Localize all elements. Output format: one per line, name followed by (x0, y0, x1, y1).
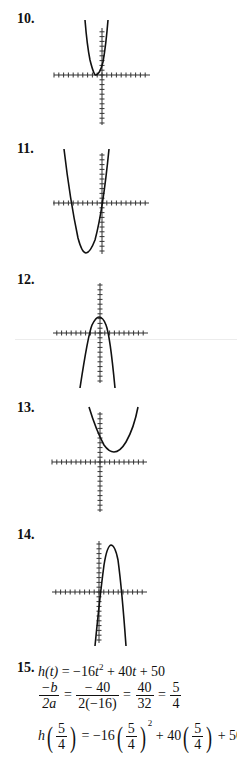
term-b: + 40 (103, 664, 132, 679)
denominator: 4 (56, 737, 67, 752)
parabola-curve (89, 407, 138, 452)
exponent: 2 (148, 718, 153, 728)
fraction-neg-b-over-2a: −b2a (39, 680, 59, 711)
numerator: 5 (170, 680, 181, 696)
function-h-of-t: h(t) (38, 664, 58, 679)
denominator: 2(−16) (76, 696, 118, 711)
right-paren: ) (140, 722, 146, 752)
problem-11-graph (0, 140, 237, 280)
denominator: 4 (126, 737, 137, 752)
axes (54, 28, 150, 125)
function-h: h (38, 728, 45, 743)
term-a: = −16 (58, 664, 95, 679)
problem-12-graph (0, 275, 237, 400)
equals: = (123, 687, 131, 702)
right-paren: ) (206, 722, 212, 752)
numerator: 5 (126, 721, 137, 737)
axes (53, 153, 149, 254)
denominator: 4 (170, 696, 181, 711)
parabola-curve (85, 20, 108, 75)
term-b: + 40 (152, 728, 181, 743)
left-paren: ( (47, 722, 53, 752)
fraction-5-4: 54 (192, 721, 203, 752)
numerator: 5 (56, 721, 67, 737)
numerator: − 40 (76, 680, 118, 696)
term-c: + 50 (136, 664, 165, 679)
equals: = (158, 687, 166, 702)
numerator: 5 (192, 721, 203, 737)
fraction-40-32: 4032 (136, 680, 154, 711)
equation-line-2: −b2a = − 402(−16) = 4032 = 54 (38, 680, 182, 711)
problem-15-label: 15. (17, 660, 35, 676)
term-a: = −16 (78, 728, 115, 743)
left-paren: ( (117, 722, 123, 752)
axes (53, 283, 148, 383)
axes (52, 541, 147, 643)
fraction-5-4: 54 (170, 680, 181, 711)
fraction-5-4: 54 (56, 721, 67, 752)
left-paren: ( (183, 722, 189, 752)
denominator: 4 (192, 737, 203, 752)
fraction-5-4: 54 (126, 721, 137, 752)
fraction-substituted: − 402(−16) (76, 680, 118, 711)
right-paren: ) (70, 722, 76, 752)
numerator: −b (39, 680, 59, 696)
denominator: 32 (136, 696, 154, 711)
numerator: 40 (136, 680, 154, 696)
result: + 50 = 75 (214, 728, 237, 743)
equation-line-1: h(t) = −16t2 + 40t + 50 (38, 662, 165, 680)
equation-line-3: h(54) = −16(54)2 + 40(54) + 50 = 75 (38, 718, 237, 752)
equals: = (64, 687, 72, 702)
denominator: 2a (39, 696, 59, 711)
problem-13-graph (0, 400, 237, 525)
problem-14-graph (0, 535, 237, 655)
problem-10-graph (0, 0, 237, 135)
